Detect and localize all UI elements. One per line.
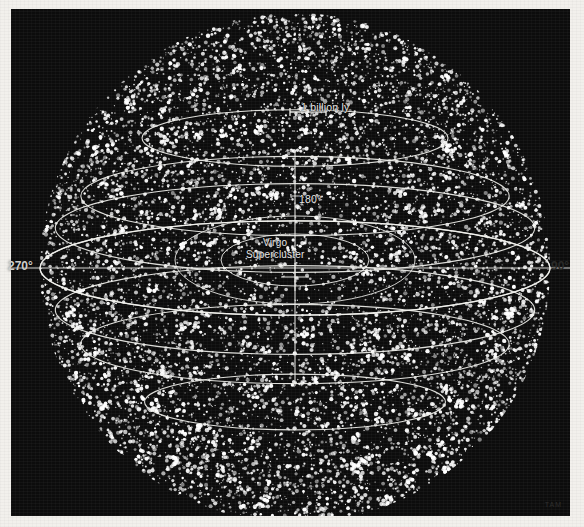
coordinate-grid-layer [11,9,570,516]
longitude-label-90: 90° [551,259,569,273]
printed-plate: 1 billion ly 180° Virgo Supercluster TAM [11,9,570,516]
watermark-credit: TAM [545,501,562,508]
longitude-label-270: 270° [8,259,33,273]
figure-root: 1 billion ly 180° Virgo Supercluster TAM… [0,0,584,527]
galaxy-sphere [11,9,570,516]
